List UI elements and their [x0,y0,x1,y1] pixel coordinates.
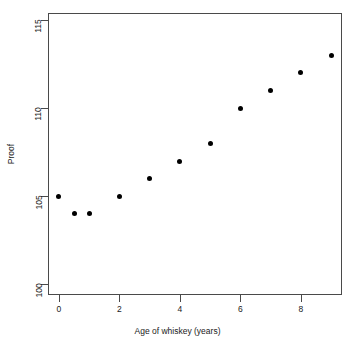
x-axis-tick-label: 8 [298,305,303,314]
x-axis-tick-label: 2 [117,305,122,314]
x-axis-tick [180,295,181,302]
x-axis-tick [240,295,241,302]
data-points-layer [48,13,342,295]
data-point [177,159,182,164]
data-point [298,70,303,75]
x-axis-tick-label: 0 [57,305,62,314]
y-axis-title: Proof [4,13,18,295]
y-axis-tick-label: 100 [35,284,44,298]
x-axis-tick-label: 6 [238,305,243,314]
y-axis-tick-label: 110 [35,107,44,121]
data-point [329,53,334,58]
x-axis-tick [301,295,302,302]
x-axis-title: Age of whiskey (years) [0,326,355,336]
x-axis-tick [119,295,120,302]
data-point [72,211,77,216]
data-point [238,106,243,111]
data-point [117,194,122,199]
data-point [208,141,213,146]
data-point [147,176,152,181]
data-point [87,211,92,216]
y-axis-tick-label: 115 [35,19,44,33]
x-axis-tick-label: 4 [178,305,183,314]
x-axis-tick [59,295,60,302]
data-point [268,88,273,93]
data-point [56,194,61,199]
scatter-plot: 100105110115 02468 Age of whiskey (years… [0,0,355,350]
y-axis-tick-label: 105 [35,196,44,210]
